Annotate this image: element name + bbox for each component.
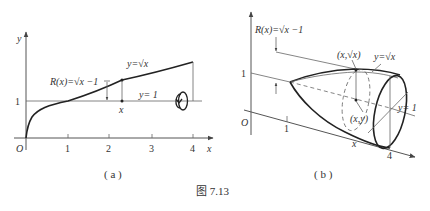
axis-point — [121, 100, 124, 103]
panel-b: R(x)=√x −1 1 O 1 (x,√x) y=√x (x,y) y= 1 … — [241, 12, 417, 181]
b-point-label: x — [351, 138, 357, 149]
b-radius-label: R(x)=√x −1 — [254, 24, 303, 36]
x-ticks — [68, 134, 193, 138]
b-inner-pointer — [356, 101, 363, 112]
x-tick-label-3: 3 — [149, 143, 154, 154]
panel-a-label: ( a ) — [104, 168, 122, 181]
figure-caption: 图 7.13 — [196, 185, 230, 197]
panel-b-label: ( b ) — [314, 168, 333, 181]
line-label: y= 1 — [138, 89, 158, 100]
b-curve-label: y=√x — [373, 51, 396, 62]
figure-7-13: O 1 2 3 4 x y 1 y=√x R(x)=√x −1 y= 1 x (… — [0, 0, 430, 211]
x-tick-label-4: 4 — [190, 143, 195, 154]
b-x-tick-1-label: 1 — [284, 123, 289, 134]
y-axis-label: y — [16, 33, 22, 44]
panel-a: O 1 2 3 4 x y 1 y=√x R(x)=√x −1 y= 1 x (… — [14, 32, 213, 181]
b-y-tick-label: 1 — [241, 68, 246, 79]
origin-label: O — [16, 143, 23, 154]
point-label: x — [118, 104, 124, 115]
curve-point — [121, 79, 124, 82]
b-line-label: y= 1 — [397, 102, 417, 113]
x-tick-label-1: 1 — [65, 143, 70, 154]
b-line-y1-left — [251, 73, 290, 82]
curve-sqrt-x — [26, 62, 193, 138]
curve-label: y=√x — [126, 58, 149, 69]
x-tick-label-2: 2 — [106, 143, 111, 154]
b-origin-label: O — [241, 117, 248, 128]
b-inner-point-label: (x,y) — [350, 113, 369, 125]
b-top-pointer — [352, 60, 356, 69]
radius-label: R(x)=√x −1 — [49, 76, 98, 88]
y-tick-label-1: 1 — [15, 96, 20, 107]
x-axis-label: x — [206, 143, 212, 154]
b-line-y1-dashed — [290, 82, 390, 108]
b-solid-top — [290, 69, 400, 82]
b-x-tick-4-label: 4 — [387, 150, 392, 161]
b-top-point-label: (x,√x) — [337, 49, 361, 61]
